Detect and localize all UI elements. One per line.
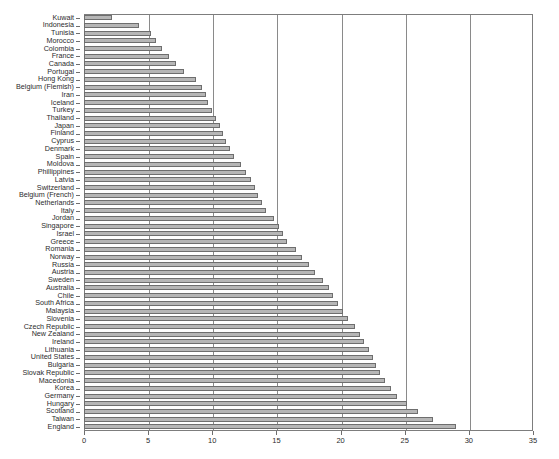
- y-axis-tick: [76, 226, 80, 227]
- bar-colombia: [84, 46, 162, 51]
- bar-chile: [84, 293, 333, 298]
- bar-hungary: [84, 401, 407, 406]
- bar-chart: KuwaitIndonesiaTunisiaMoroccoColombiaFra…: [0, 0, 559, 459]
- y-axis-tick: [76, 80, 80, 81]
- bar-row: [84, 315, 533, 323]
- bar-row: [84, 184, 533, 192]
- y-axis-tick: [76, 72, 80, 73]
- y-axis-labels: KuwaitIndonesiaTunisiaMoroccoColombiaFra…: [0, 14, 80, 431]
- y-axis-tick: [76, 327, 80, 328]
- bar-row: [84, 369, 533, 377]
- bar-canada: [84, 61, 176, 66]
- bar-row: [84, 192, 533, 200]
- bar-tunisia: [84, 31, 151, 36]
- bar-japan: [84, 123, 220, 128]
- y-axis-tick: [76, 195, 80, 196]
- bar-row: [84, 99, 533, 107]
- bar-row: [84, 14, 533, 22]
- y-axis-tick: [76, 95, 80, 96]
- y-axis-tick: [76, 342, 80, 343]
- x-axis-tick-label: 5: [146, 436, 150, 445]
- bar-row: [84, 230, 533, 238]
- bar-greece: [84, 239, 287, 244]
- y-axis-tick: [76, 365, 80, 366]
- bar-row: [84, 346, 533, 354]
- bar-row: [84, 76, 533, 84]
- x-axis-tick-15: [276, 431, 277, 435]
- y-axis-tick: [76, 33, 80, 34]
- y-axis-tick: [76, 149, 80, 150]
- y-axis-tick: [76, 250, 80, 251]
- bar-united-states: [84, 355, 373, 360]
- bar-row: [84, 107, 533, 115]
- y-axis-tick: [76, 118, 80, 119]
- bar-russia: [84, 262, 309, 267]
- bar-row: [84, 423, 533, 431]
- bar-row: [84, 323, 533, 331]
- y-axis-tick: [76, 56, 80, 57]
- x-axis-tick-20: [341, 431, 342, 435]
- y-axis-tick: [76, 49, 80, 50]
- bar-moldova: [84, 162, 241, 167]
- bar-netherlands: [84, 200, 262, 205]
- y-axis-tick: [76, 319, 80, 320]
- bar-row: [84, 176, 533, 184]
- x-axis-tick-label: 15: [272, 436, 280, 445]
- bar-row: [84, 416, 533, 424]
- bar-row: [84, 261, 533, 269]
- y-axis-tick: [76, 165, 80, 166]
- bar-belgium-flemish-: [84, 85, 202, 90]
- bar-turkey: [84, 108, 212, 113]
- bar-slovenia: [84, 316, 348, 321]
- bar-row: [84, 253, 533, 261]
- bar-row: [84, 385, 533, 393]
- bars-layer: [84, 14, 533, 431]
- bar-row: [84, 22, 533, 30]
- y-axis-tick: [76, 203, 80, 204]
- y-axis-tick: [76, 389, 80, 390]
- y-axis-tick: [76, 234, 80, 235]
- bar-new-zealand: [84, 332, 360, 337]
- bar-belgium-french-: [84, 193, 258, 198]
- y-axis-label: England: [48, 423, 74, 431]
- bar-row: [84, 53, 533, 61]
- y-axis-tick: [76, 26, 80, 27]
- bar-romania: [84, 247, 296, 252]
- y-axis-tick: [76, 87, 80, 88]
- bar-row: [84, 331, 533, 339]
- bar-row: [84, 138, 533, 146]
- y-axis-tick: [76, 172, 80, 173]
- y-axis-tick: [76, 427, 80, 428]
- y-axis-tick: [76, 41, 80, 42]
- bar-row: [84, 45, 533, 53]
- bar-row: [84, 153, 533, 161]
- bar-macedonia: [84, 378, 385, 383]
- bar-row: [84, 354, 533, 362]
- y-axis-tick: [76, 265, 80, 266]
- bar-slovak-republic: [84, 370, 380, 375]
- bar-row: [84, 161, 533, 169]
- bar-row: [84, 246, 533, 254]
- bar-taiwan: [84, 417, 433, 422]
- bar-norway: [84, 255, 302, 260]
- y-axis-tick: [76, 111, 80, 112]
- x-axis-tick-25: [405, 431, 406, 435]
- bar-france: [84, 54, 169, 59]
- bar-south-africa: [84, 301, 338, 306]
- bar-row: [84, 223, 533, 231]
- x-axis: 05101520253035: [84, 431, 533, 455]
- y-axis-tick: [76, 350, 80, 351]
- bar-row: [84, 215, 533, 223]
- y-axis-tick: [76, 381, 80, 382]
- bar-switzerland: [84, 185, 255, 190]
- y-axis-tick: [76, 296, 80, 297]
- bar-denmark: [84, 146, 230, 151]
- bar-scotland: [84, 409, 418, 414]
- y-axis-tick: [76, 412, 80, 413]
- y-axis-tick: [76, 273, 80, 274]
- bar-row: [84, 145, 533, 153]
- bar-row: [84, 199, 533, 207]
- bar-sweden: [84, 278, 323, 283]
- bar-iceland: [84, 100, 208, 105]
- x-axis-tick-5: [148, 431, 149, 435]
